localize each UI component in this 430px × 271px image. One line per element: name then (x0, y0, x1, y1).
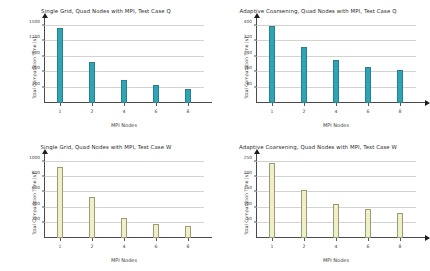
chart-title: Adaptive Coarsening, Quad Nodes with MPI… (212, 144, 424, 150)
x-tick-mark (188, 238, 189, 241)
x-tick-label: 4 (123, 109, 126, 114)
y-tick-mark (254, 55, 257, 56)
chart-title: Single Grid, Quad Nodes with MPI, Test C… (0, 8, 212, 14)
x-tick-label: 8 (187, 244, 190, 249)
x-tick-mark (156, 103, 157, 106)
bar (397, 213, 403, 238)
gridline (44, 56, 204, 57)
bar (397, 70, 403, 103)
y-axis-line (44, 153, 45, 238)
chart-panel-bottom-left: Single Grid, Quad Nodes with MPI, Test C… (0, 136, 212, 271)
bar (121, 218, 127, 239)
gridline (44, 40, 204, 41)
chart-title: Adaptive Coarsening, Quad Nodes with MPI… (212, 8, 424, 14)
y-tick-label: 100 (244, 200, 252, 205)
x-axis-label: MPI Nodes (256, 122, 416, 128)
bar (89, 62, 95, 103)
y-tick-mark (42, 71, 45, 72)
gridline (44, 25, 204, 26)
bar (57, 28, 63, 103)
y-tick-label: 320 (244, 34, 252, 39)
y-tick-mark (254, 25, 257, 26)
y-tick-label: 150 (244, 185, 252, 190)
x-tick-label: 2 (91, 244, 94, 249)
bar (185, 226, 191, 238)
y-tick-mark (42, 191, 45, 192)
bar (333, 204, 339, 238)
x-tick-mark (92, 103, 93, 106)
x-tick-mark (124, 238, 125, 241)
plot-area: 5010015020025012468 (256, 159, 416, 238)
chart-panel-bottom-right: Adaptive Coarsening, Quad Nodes with MPI… (212, 136, 424, 271)
chart-title: Single Grid, Quad Nodes with MPI, Test C… (0, 144, 212, 150)
bar (365, 209, 371, 238)
y-tick-label: 400 (32, 200, 40, 205)
bar (57, 167, 63, 238)
x-tick-mark (400, 103, 401, 106)
x-axis-label: MPI Nodes (44, 257, 204, 263)
plot-area: 8016024032040012468 (256, 23, 416, 103)
gridline (256, 176, 416, 177)
chart-panel-top-left: Single Grid, Quad Nodes with MPI, Test C… (0, 0, 212, 136)
y-tick-mark (42, 161, 45, 162)
x-tick-label: 6 (367, 244, 370, 249)
x-tick-mark (368, 103, 369, 106)
y-tick-mark (254, 221, 257, 222)
bar (89, 197, 95, 238)
gridline (256, 40, 416, 41)
y-tick-mark (254, 206, 257, 207)
x-tick-mark (336, 238, 337, 241)
y-tick-mark (254, 176, 257, 177)
x-tick-mark (60, 238, 61, 241)
x-tick-mark (272, 103, 273, 106)
x-tick-label: 6 (155, 244, 158, 249)
y-tick-mark (42, 55, 45, 56)
y-tick-label: 200 (244, 170, 252, 175)
y-axis-line (256, 17, 257, 103)
bar (185, 89, 191, 103)
gridline (256, 191, 416, 192)
y-tick-label: 1500 (29, 19, 40, 24)
y-tick-mark (254, 86, 257, 87)
y-tick-mark (254, 191, 257, 192)
x-tick-label: 2 (303, 109, 306, 114)
y-tick-label: 240 (244, 49, 252, 54)
y-axis-line (44, 17, 45, 103)
gridline (44, 71, 204, 72)
x-tick-label: 1 (271, 244, 274, 249)
y-tick-mark (42, 221, 45, 222)
x-tick-label: 2 (91, 109, 94, 114)
y-tick-mark (254, 161, 257, 162)
x-tick-mark (368, 238, 369, 241)
y-tick-label: 250 (244, 155, 252, 160)
y-tick-label: 80 (247, 80, 252, 85)
bar (153, 224, 159, 238)
gridline (256, 56, 416, 57)
y-axis-line (256, 153, 257, 238)
y-tick-label: 50 (247, 215, 252, 220)
x-tick-label: 1 (59, 244, 62, 249)
y-tick-label: 200 (32, 215, 40, 220)
chart-panel-top-right: Adaptive Coarsening, Quad Nodes with MPI… (212, 0, 424, 136)
gridline (44, 207, 204, 208)
y-tick-label: 300 (32, 80, 40, 85)
plot-area: 200400600800100012468 (44, 159, 204, 238)
x-tick-label: 1 (59, 109, 62, 114)
x-tick-label: 4 (335, 244, 338, 249)
y-tick-label: 400 (244, 19, 252, 24)
bar (121, 80, 127, 103)
x-tick-mark (304, 238, 305, 241)
gridline (44, 191, 204, 192)
plot-area: 3006009001200150012468 (44, 23, 204, 103)
bar (301, 47, 307, 103)
y-tick-mark (42, 206, 45, 207)
y-tick-mark (42, 40, 45, 41)
y-tick-label: 1200 (29, 34, 40, 39)
x-tick-label: 6 (367, 109, 370, 114)
x-tick-mark (188, 103, 189, 106)
gridline (256, 25, 416, 26)
x-axis-label: MPI Nodes (44, 122, 204, 128)
y-tick-label: 160 (244, 65, 252, 70)
x-tick-label: 6 (155, 109, 158, 114)
